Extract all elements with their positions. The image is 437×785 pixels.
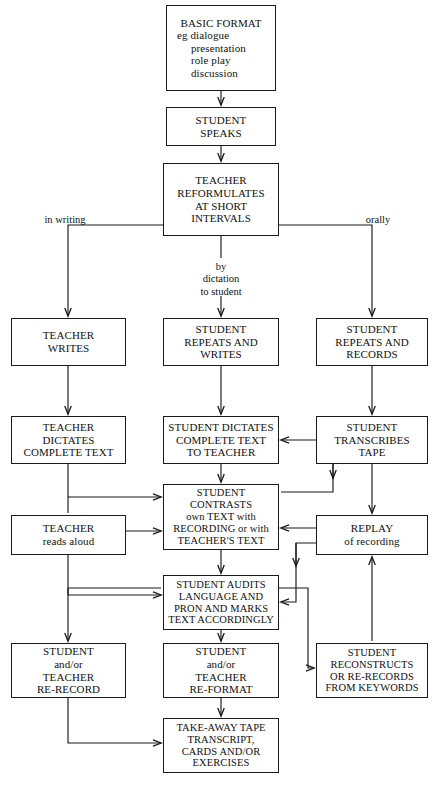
node-text-line: REFORMULATES xyxy=(177,187,264,200)
node-text-line: TEACHER xyxy=(43,329,94,342)
node-teacher-writes: TEACHERWRITES xyxy=(11,318,126,366)
edge-label-by-dictation-to-student: by dictation to student xyxy=(186,261,256,298)
node-text-line: STUDENT xyxy=(196,645,247,658)
node-text-line: WRITES xyxy=(48,342,90,355)
node-text-line: own TEXT with xyxy=(186,511,256,523)
edge-reformulates-to-teacherwrites xyxy=(68,225,163,316)
edge-readsaloud-to-audits xyxy=(68,555,161,595)
node-take-away-tape: TAKE-AWAY TAPETRANSCRIPT,CARDS AND/OREXE… xyxy=(163,718,279,773)
node-text-line: RECORDING or with xyxy=(173,523,269,535)
node-text-line: eg dialogue xyxy=(167,29,229,42)
node-text-line: STUDENT AUDITS xyxy=(176,579,266,591)
node-student-speaks: STUDENTSPEAKS xyxy=(166,107,276,146)
node-text-line: WRITES xyxy=(200,348,242,361)
node-text-line: TAPE xyxy=(358,446,385,459)
node-text-line: TO TEACHER xyxy=(187,446,256,459)
edge-replay-to-audits-hook xyxy=(281,543,316,602)
node-text-line: TEXT ACCORDINGLY xyxy=(168,614,274,626)
node-text-line: STUDENT xyxy=(197,487,246,499)
node-text-line: of recording xyxy=(344,535,399,548)
node-teacher-dictates-complete-text: TEACHERDICTATESCOMPLETE TEXT xyxy=(11,416,126,464)
edge-audits-to-reconstructs xyxy=(279,588,314,668)
node-replay-of-recording: REPLAYof recording xyxy=(316,515,428,555)
node-text-line: STUDENT xyxy=(347,323,398,336)
edge-audits-to-rerecord xyxy=(68,588,161,641)
node-text-line: TEACHER xyxy=(43,671,94,684)
node-text-line: CONTRASTS xyxy=(190,499,252,511)
node-text-line: TEACHER xyxy=(43,421,94,434)
node-text-line: RE-RECORD xyxy=(37,683,100,696)
node-text-line: RE-FORMAT xyxy=(189,683,252,696)
node-student-dictates-complete-text-to-teacher: STUDENT DICTATESCOMPLETE TEXTTO TEACHER xyxy=(163,416,279,464)
node-text-line: TEACHER xyxy=(195,671,246,684)
node-text-line: AT SHORT xyxy=(195,200,247,213)
node-text-line: EXERCISES xyxy=(193,757,250,769)
node-text-line: SPEAKS xyxy=(200,127,242,140)
node-student-reconstructs: STUDENTRECONSTRUCTSOR RE-RECORDSFROM KEY… xyxy=(316,643,428,698)
node-text-line: REPEATS AND xyxy=(335,336,409,349)
node-text-line: and/or xyxy=(54,658,83,671)
node-text-line: BASIC FORMAT xyxy=(181,17,262,30)
node-student-contrasts: STUDENTCONTRASTSown TEXT withRECORDING o… xyxy=(163,484,279,550)
node-student-repeats-and-writes: STUDENTREPEATS ANDWRITES xyxy=(163,318,279,366)
node-text-line: COMPLETE TEXT xyxy=(23,446,113,459)
edge-reformulates-to-studentrecords xyxy=(279,225,372,316)
node-text-line: TAKE-AWAY TAPE xyxy=(176,722,265,734)
node-text-line: TEACHER xyxy=(43,522,94,535)
node-teacher-reformulates: TEACHERREFORMULATESAT SHORTINTERVALS xyxy=(163,163,279,236)
node-text-line: STUDENT xyxy=(196,114,247,127)
node-text-line: TEACHER'S TEXT xyxy=(178,535,265,547)
node-text-line: REPLAY xyxy=(351,522,393,535)
flowchart-canvas: BASIC FORMATeg dialoguepresentationrole … xyxy=(0,0,437,785)
node-text-line: RECONSTRUCTS xyxy=(331,659,414,671)
node-student-repeats-and-records: STUDENTREPEATS ANDRECORDS xyxy=(316,318,428,366)
node-text-line: role play xyxy=(167,54,231,67)
node-text-line: STUDENT xyxy=(196,323,247,336)
node-text-line: REPEATS AND xyxy=(184,336,258,349)
node-student-teacher-re-format: STUDENTand/orTEACHERRE-FORMAT xyxy=(163,643,279,698)
node-text-line: STUDENT xyxy=(347,421,398,434)
node-text-line: reads aloud xyxy=(43,535,95,548)
edge-rerecord-to-takeaway xyxy=(68,698,161,743)
node-text-line: LANGUAGE AND xyxy=(179,591,263,603)
node-text-line: TRANSCRIPT, xyxy=(187,734,254,746)
edge-label-in-writing: in writing xyxy=(36,214,94,226)
node-text-line: DICTATES xyxy=(43,434,95,447)
node-text-line: STUDENT xyxy=(348,647,397,659)
node-text-line: TEACHER xyxy=(195,174,246,187)
node-text-line: TRANSCRIBES xyxy=(334,434,410,447)
node-text-line: discussion xyxy=(167,67,238,80)
node-text-line: STUDENT xyxy=(43,645,94,658)
edge-label-orally: orally xyxy=(357,214,399,226)
node-text-line: RECORDS xyxy=(346,348,397,361)
node-student-transcribes-tape: STUDENTTRANSCRIBESTAPE xyxy=(316,416,428,464)
node-text-line: STUDENT DICTATES xyxy=(168,421,273,434)
node-text-line: INTERVALS xyxy=(191,212,251,225)
node-text-line: COMPLETE TEXT xyxy=(176,434,266,447)
node-basic-format: BASIC FORMATeg dialoguepresentationrole … xyxy=(166,5,276,91)
edge-transcribes-to-contrasts-hook xyxy=(281,464,333,492)
node-text-line: CARDS AND/OR xyxy=(182,746,261,758)
node-teacher-reads-aloud: TEACHERreads aloud xyxy=(11,515,126,555)
node-text-line: OR RE-RECORDS xyxy=(330,671,414,683)
node-student-teacher-re-record: STUDENTand/orTEACHERRE-RECORD xyxy=(11,643,126,698)
node-text-line: presentation xyxy=(167,42,246,55)
node-text-line: FROM KEYWORDS xyxy=(325,682,418,694)
node-student-audits-language: STUDENT AUDITSLANGUAGE ANDPRON AND MARKS… xyxy=(163,575,279,630)
node-text-line: PRON AND MARKS xyxy=(174,603,268,615)
node-text-line: and/or xyxy=(207,658,236,671)
